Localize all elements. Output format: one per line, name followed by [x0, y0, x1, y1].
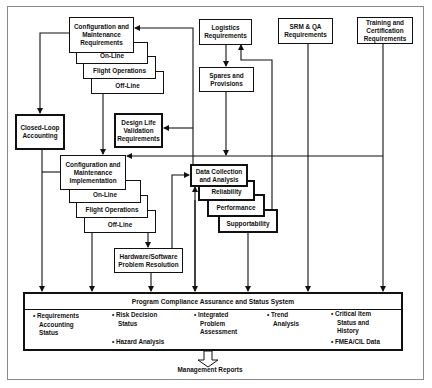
bullet-line: • Integrated [194, 311, 228, 318]
srm-qa-req-label: SRM & QA Requirements [280, 23, 331, 39]
pcass-item-hazard-analysis: • Hazard Analysis [112, 338, 164, 347]
design-life-validation-label: Design Life Validation Requirements [117, 119, 160, 143]
pcass-title: Program Compliance Assurance and Status … [25, 294, 401, 310]
logistics-req-box: Logistics Requirements [199, 19, 252, 45]
config-maint-impl-label: Configuration and Maintenance Implementa… [62, 161, 124, 185]
bullet-line: • Requirements [33, 312, 79, 319]
srm-qa-req-box: SRM & QA Requirements [278, 18, 333, 44]
pcass-item-fmea-cil-data: • FMEA/CIL Data [331, 338, 380, 347]
config-req-offline-label: Off-Line [115, 82, 140, 90]
bullet-line: Problem [194, 320, 237, 329]
hw-sw-problem-resolution-label: Hardware/Software Problem Resolution [116, 253, 181, 269]
pcass-item-critical-item-status: • Critical Item Status and History [331, 310, 371, 336]
spares-provisions-label: Spares and Provisions [201, 72, 252, 88]
bullet-line: • Hazard Analysis [112, 338, 164, 345]
config-maint-req-label: Configuration and Maintenance Requiremen… [71, 23, 132, 47]
pcass-item-trend-analysis: • Trend Analysis [267, 311, 299, 328]
bullet-line: Accounting [33, 321, 79, 330]
training-cert-req-box: Training and Certification Requirements [357, 17, 413, 44]
closed-loop-accounting-label: Closed-Loop Accounting [18, 124, 62, 140]
bullet-line: Status [33, 329, 79, 338]
performance-label: Performance [216, 204, 255, 212]
config-maint-impl-box: Configuration and Maintenance Implementa… [60, 155, 126, 190]
bullet-line: • Critical Item [331, 310, 371, 317]
bullet-line: • Trend [267, 311, 288, 318]
data-collection-analysis-label: Data Collection and Analysis [193, 168, 245, 184]
reliability-label: Reliability [211, 188, 241, 196]
config-req-online-label: On-Line [100, 52, 124, 60]
bullet-line: Status [112, 320, 157, 329]
design-life-validation-box: Design Life Validation Requirements [114, 113, 163, 148]
arrow-config-req-to-closed-loop [40, 33, 69, 113]
bullet-line: • FMEA/CIL Data [331, 338, 380, 345]
management-reports-label: Management Reports [160, 366, 260, 373]
bullet-line: Assessment [194, 328, 237, 337]
program-compliance-flow-diagram: Off-Line Flight Operations On-Line Confi… [0, 0, 432, 388]
pcass-box: Program Compliance Assurance and Status … [23, 292, 403, 351]
arrow-hw-sw-to-data-collection [172, 175, 189, 248]
closed-loop-accounting-box: Closed-Loop Accounting [15, 114, 65, 150]
data-collection-analysis-box: Data Collection and Analysis [190, 164, 248, 187]
management-reports-arrow [198, 351, 218, 367]
pcass-item-requirements-accounting: • Requirements Accounting Status [33, 312, 79, 338]
config-impl-online-label: On-Line [93, 191, 117, 199]
bullet-line: Status and [331, 319, 371, 328]
config-maint-req-box: Configuration and Maintenance Requiremen… [69, 17, 134, 53]
spares-provisions-box: Spares and Provisions [199, 67, 254, 92]
bullet-line: • Risk Decision [112, 311, 157, 318]
config-impl-offline-label: Off-Line [108, 221, 133, 229]
bullet-line: Analysis [267, 320, 299, 329]
supportability-label: Supportability [227, 220, 270, 228]
logistics-req-label: Logistics Requirements [201, 24, 250, 40]
config-req-flight-ops-label: Flight Operations [93, 67, 146, 75]
config-impl-flight-ops-label: Flight Operations [86, 206, 139, 214]
training-cert-req-label: Training and Certification Requirements [359, 19, 411, 43]
hw-sw-problem-resolution-box: Hardware/Software Problem Resolution [114, 248, 183, 273]
pcass-item-risk-decision: • Risk Decision Status [112, 311, 157, 328]
pcass-item-integrated-problem-assessment: • Integrated Problem Assessment [194, 311, 237, 337]
bullet-line: History [331, 327, 371, 336]
